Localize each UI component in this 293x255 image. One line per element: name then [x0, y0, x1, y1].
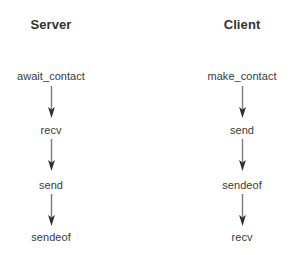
- client-column: Client make_contact send sendeof recv: [172, 0, 293, 255]
- client-column-title: Client: [172, 17, 293, 32]
- diagram-canvas: Server await_contact recv send sendeof: [0, 0, 293, 255]
- server-step-3-label: send: [0, 179, 121, 191]
- server-column: Server await_contact recv send sendeof: [0, 0, 121, 255]
- client-step-2-label: send: [172, 124, 293, 136]
- client-arrow-1: [237, 86, 248, 118]
- server-arrow-3: [46, 194, 57, 226]
- server-arrow-1: [46, 86, 57, 118]
- client-step-3-label: sendeof: [172, 179, 293, 191]
- server-step-2-label: recv: [0, 124, 121, 136]
- server-arrow-2: [46, 139, 57, 171]
- server-column-title: Server: [0, 17, 121, 32]
- client-step-1-label: make_contact: [172, 70, 293, 82]
- server-step-4-label: sendeof: [0, 231, 121, 243]
- server-step-1-label: await_contact: [0, 70, 121, 82]
- client-arrow-3: [237, 194, 248, 226]
- client-arrow-2: [237, 139, 248, 171]
- client-step-4-label: recv: [172, 231, 293, 243]
